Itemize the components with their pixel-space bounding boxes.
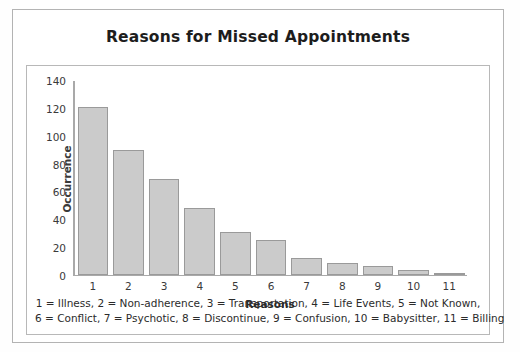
x-axis-tick-label: 4 <box>182 275 218 292</box>
chart-page: Reasons for Missed Appointments Occurren… <box>0 0 520 352</box>
legend-line: 6 = Conflict, 7 = Psychotic, 8 = Discont… <box>35 311 481 326</box>
bar-slot: 4 <box>182 81 218 275</box>
y-axis-tick-label: 60 <box>53 186 73 198</box>
bar <box>78 107 109 274</box>
plot-area: Occurrence 020406080100120140 1234567891… <box>26 65 490 335</box>
bar <box>184 208 215 274</box>
bar-slot: 8 <box>324 81 360 275</box>
bar-slot: 5 <box>218 81 254 275</box>
bar <box>363 266 394 274</box>
y-axis-tick-label: 100 <box>46 131 73 143</box>
y-axis-title: Occurrence <box>61 145 73 212</box>
bar-slot: 10 <box>396 81 432 275</box>
bar-slot: 7 <box>289 81 325 275</box>
legend-line: 1 = Illness, 2 = Non-adherence, 3 = Tran… <box>35 296 481 311</box>
bar <box>256 240 287 275</box>
x-axis-tick-label: 3 <box>146 275 182 292</box>
y-axis-tick-label: 120 <box>46 103 73 115</box>
x-axis-tick-label: 11 <box>431 275 467 292</box>
axes: Occurrence 020406080100120140 1234567891… <box>73 81 467 276</box>
bar <box>220 232 251 275</box>
x-axis-tick-label: 6 <box>253 275 289 292</box>
bar-slot: 9 <box>360 81 396 275</box>
bar-slot: 6 <box>253 81 289 275</box>
bar-slot: 1 <box>75 81 111 275</box>
chart-title: Reasons for Missed Appointments <box>12 28 504 46</box>
x-axis-tick-label: 5 <box>218 275 254 292</box>
bar <box>291 258 322 275</box>
bar-series: 1234567891011 <box>75 81 467 275</box>
bar <box>149 179 180 274</box>
bar-slot: 3 <box>146 81 182 275</box>
y-axis-tick-label: 40 <box>53 214 73 226</box>
x-axis-tick-label: 7 <box>289 275 325 292</box>
x-axis-tick-label: 10 <box>396 275 432 292</box>
x-axis-tick-label: 8 <box>324 275 360 292</box>
x-axis-tick-label: 2 <box>111 275 147 292</box>
y-axis-tick-label: 80 <box>53 159 73 171</box>
category-legend: 1 = Illness, 2 = Non-adherence, 3 = Tran… <box>35 296 481 326</box>
bar <box>113 150 144 274</box>
bar-slot: 2 <box>111 81 147 275</box>
x-axis-tick-label: 9 <box>360 275 396 292</box>
bar <box>327 263 358 274</box>
x-axis-tick-label: 1 <box>75 275 111 292</box>
bar-slot: 11 <box>431 81 467 275</box>
y-axis-tick-label: 140 <box>46 75 73 87</box>
y-axis-tick-label: 20 <box>53 242 73 254</box>
y-axis-tick-label: 0 <box>59 270 73 282</box>
